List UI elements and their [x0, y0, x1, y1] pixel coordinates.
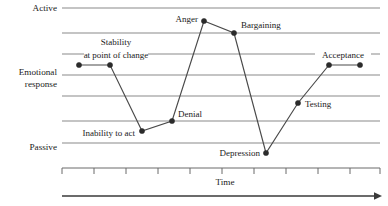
- data-point[interactable]: [263, 150, 268, 155]
- change-curve-chart: Active Emotional response Passive Stabil…: [0, 0, 388, 206]
- y-label-response: response: [25, 79, 57, 89]
- annotation-denial: Denial: [178, 109, 202, 119]
- annotation-stability-line2: at point of change: [84, 50, 149, 60]
- y-label-passive: Passive: [29, 142, 57, 152]
- data-point[interactable]: [295, 100, 300, 105]
- data-point[interactable]: [326, 62, 331, 67]
- data-point[interactable]: [76, 62, 81, 67]
- y-label-active: Active: [33, 3, 58, 13]
- annotation-depression: Depression: [220, 148, 261, 158]
- annotation-inability: Inability to act: [83, 128, 136, 138]
- x-axis-group: [62, 168, 380, 174]
- y-label-emotional: Emotional: [19, 67, 58, 77]
- annotations-group: Stability at point of change Inability t…: [67, 14, 371, 158]
- data-point[interactable]: [139, 128, 144, 133]
- chart-canvas: Active Emotional response Passive Stabil…: [0, 0, 388, 206]
- data-point[interactable]: [357, 62, 362, 67]
- data-point[interactable]: [231, 30, 236, 35]
- annotation-acceptance: Acceptance: [322, 50, 364, 60]
- annotation-testing: Testing: [305, 99, 332, 109]
- data-point[interactable]: [169, 118, 174, 123]
- data-point[interactable]: [201, 18, 206, 23]
- x-axis-title: Time: [215, 177, 234, 187]
- time-direction-arrow: [62, 192, 382, 200]
- data-point[interactable]: [107, 62, 112, 67]
- annotation-bargaining: Bargaining: [241, 20, 281, 30]
- annotation-anger: Anger: [176, 14, 199, 24]
- y-axis-labels-group: Active Emotional response Passive: [19, 3, 58, 152]
- annotation-stability-line1: Stability: [101, 37, 132, 47]
- arrow-head-icon: [374, 192, 382, 200]
